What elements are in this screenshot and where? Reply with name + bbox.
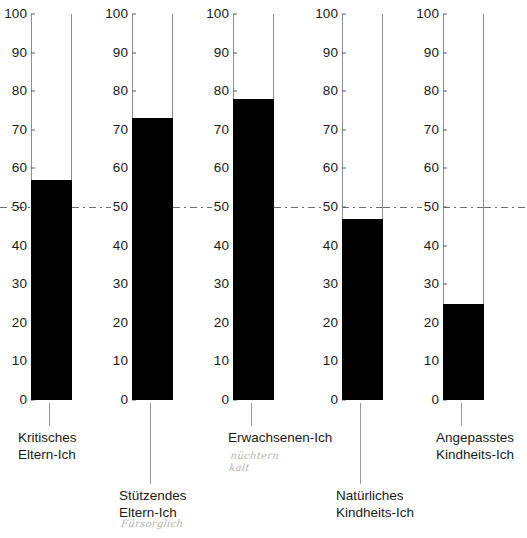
caption-line: Kindheits-Ich xyxy=(436,446,514,463)
y-axis-tick-mark-80-kritisches-eltern-ich xyxy=(31,91,35,92)
y-axis-tick-mark-90-kritisches-eltern-ich xyxy=(31,52,35,53)
y-axis-tick-label-90-kritisches-eltern-ich: 90 xyxy=(12,46,27,60)
y-axis-tick-label-0-natuerliches-kindheits-ich: 0 xyxy=(330,393,338,407)
y-axis-tick-label-100-erwachsenen-ich: 100 xyxy=(206,7,229,21)
reference-line-segment-2 xyxy=(274,207,321,208)
caption-line: Erwachsenen-Ich xyxy=(228,429,332,446)
y-axis-tick-label-50-erwachsenen-ich: 50 xyxy=(214,200,229,214)
y-axis-tick-label-40-kritisches-eltern-ich: 40 xyxy=(12,239,27,253)
handwritten-annotation-erwachsenen-ich: nüchternkalt xyxy=(229,450,280,473)
y-axis-tick-mark-50-angepasstes-kindheits-ich xyxy=(443,207,447,208)
y-axis-tick-mark-80-natuerliches-kindheits-ich xyxy=(342,91,346,92)
y-axis-tick-label-60-angepasstes-kindheits-ich: 60 xyxy=(424,162,439,176)
y-axis-tick-label-100-angepasstes-kindheits-ich: 100 xyxy=(416,7,439,21)
y-axis-tick-label-100-stuetzendes-eltern-ich: 100 xyxy=(105,7,128,21)
y-axis-tick-label-80-angepasstes-kindheits-ich: 80 xyxy=(424,84,439,98)
y-axis-tick-label-80-erwachsenen-ich: 80 xyxy=(214,84,229,98)
y-axis-tick-label-80-stuetzendes-eltern-ich: 80 xyxy=(113,84,128,98)
y-axis-tick-label-20-erwachsenen-ich: 20 xyxy=(214,316,229,330)
y-axis-tick-label-70-natuerliches-kindheits-ich: 70 xyxy=(323,123,338,137)
y-axis-tick-label-70-stuetzendes-eltern-ich: 70 xyxy=(113,123,128,137)
y-axis-tick-label-70-kritisches-eltern-ich: 70 xyxy=(12,123,27,137)
y-axis-tick-mark-100-kritisches-eltern-ich xyxy=(31,14,35,15)
y-axis-tick-mark-60-kritisches-eltern-ich xyxy=(31,168,35,169)
y-axis-tick-label-40-erwachsenen-ich: 40 xyxy=(214,239,229,253)
y-axis-tick-label-50-angepasstes-kindheits-ich: 50 xyxy=(424,200,439,214)
y-axis-tick-mark-100-erwachsenen-ich xyxy=(233,14,237,15)
y-axis-tick-label-20-angepasstes-kindheits-ich: 20 xyxy=(424,316,439,330)
y-axis-tick-label-100-natuerliches-kindheits-ich: 100 xyxy=(315,7,338,21)
y-axis-tick-mark-70-angepasstes-kindheits-ich xyxy=(443,129,447,130)
reference-line-segment-0 xyxy=(72,207,111,208)
y-axis-tick-label-30-erwachsenen-ich: 30 xyxy=(214,277,229,291)
y-axis-tick-mark-90-stuetzendes-eltern-ich xyxy=(132,52,136,53)
caption-line: Angepasstes xyxy=(436,429,514,446)
leader-line-angepasstes-kindheits-ich xyxy=(461,403,462,426)
caption-line: Kritisches xyxy=(18,429,77,446)
y-axis-tick-label-30-kritisches-eltern-ich: 30 xyxy=(12,277,27,291)
annotation-line: kalt xyxy=(229,462,279,474)
y-axis-tick-mark-60-natuerliches-kindheits-ich xyxy=(342,168,346,169)
y-axis-tick-label-40-stuetzendes-eltern-ich: 40 xyxy=(113,239,128,253)
y-axis-tick-label-90-natuerliches-kindheits-ich: 90 xyxy=(323,46,338,60)
y-axis-tick-label-30-stuetzendes-eltern-ich: 30 xyxy=(113,277,128,291)
y-axis-tick-label-30-angepasstes-kindheits-ich: 30 xyxy=(424,277,439,291)
bar-chart: 0102030405060708090100KritischesEltern-I… xyxy=(0,0,527,538)
y-axis-tick-label-70-erwachsenen-ich: 70 xyxy=(214,123,229,137)
leader-line-natuerliches-kindheits-ich xyxy=(360,403,361,484)
y-axis-tick-label-60-natuerliches-kindheits-ich: 60 xyxy=(323,162,338,176)
y-axis-tick-label-10-angepasstes-kindheits-ich: 10 xyxy=(424,355,439,369)
reference-line-segment-3 xyxy=(383,207,422,208)
y-axis-tick-label-70-angepasstes-kindheits-ich: 70 xyxy=(424,123,439,137)
y-axis-tick-label-50-natuerliches-kindheits-ich: 50 xyxy=(323,200,338,214)
y-axis-tick-label-10-stuetzendes-eltern-ich: 10 xyxy=(113,355,128,369)
y-axis-tick-label-80-natuerliches-kindheits-ich: 80 xyxy=(323,84,338,98)
y-axis-tick-label-80-kritisches-eltern-ich: 80 xyxy=(12,84,27,98)
annotation-line: nüchtern xyxy=(230,450,280,462)
bar-caption-natuerliches-kindheits-ich: NatürlichesKindheits-Ich xyxy=(336,487,414,521)
bar-natuerliches-kindheits-ich xyxy=(342,219,383,400)
caption-line: Eltern-Ich xyxy=(18,446,77,463)
y-axis-tick-label-0-stuetzendes-eltern-ich: 0 xyxy=(120,393,128,407)
y-axis-tick-mark-90-natuerliches-kindheits-ich xyxy=(342,52,346,53)
y-axis-tick-mark-80-angepasstes-kindheits-ich xyxy=(443,91,447,92)
bar-caption-angepasstes-kindheits-ich: AngepasstesKindheits-Ich xyxy=(436,429,514,463)
bar-caption-stuetzendes-eltern-ich: StützendesEltern-Ich xyxy=(119,487,187,521)
y-axis-tick-label-0-kritisches-eltern-ich: 0 xyxy=(19,393,27,407)
bar-angepasstes-kindheits-ich xyxy=(443,304,484,401)
y-axis-tick-mark-100-natuerliches-kindheits-ich xyxy=(342,14,346,15)
annotation-line: Fürsorglich xyxy=(120,518,183,530)
y-axis-tick-label-10-kritisches-eltern-ich: 10 xyxy=(12,355,27,369)
caption-line: Natürliches xyxy=(336,487,414,504)
y-axis-tick-mark-30-angepasstes-kindheits-ich xyxy=(443,284,447,285)
y-axis-tick-label-90-angepasstes-kindheits-ich: 90 xyxy=(424,46,439,60)
reference-line-segment-4 xyxy=(484,207,527,208)
y-axis-tick-mark-100-angepasstes-kindheits-ich xyxy=(443,14,447,15)
y-axis-tick-mark-100-stuetzendes-eltern-ich xyxy=(132,14,136,15)
y-axis-tick-label-0-angepasstes-kindheits-ich: 0 xyxy=(431,393,439,407)
bar-caption-kritisches-eltern-ich: KritischesEltern-Ich xyxy=(18,429,77,463)
y-axis-tick-label-10-natuerliches-kindheits-ich: 10 xyxy=(323,355,338,369)
handwritten-annotation-stuetzendes-eltern-ich: Fürsorglich xyxy=(120,518,183,530)
y-axis-tick-mark-70-kritisches-eltern-ich xyxy=(31,129,35,130)
y-axis-tick-label-100-kritisches-eltern-ich: 100 xyxy=(4,7,27,21)
y-axis-tick-label-50-kritisches-eltern-ich: 50 xyxy=(12,200,27,214)
y-axis-tick-mark-90-angepasstes-kindheits-ich xyxy=(443,52,447,53)
y-axis-tick-label-20-kritisches-eltern-ich: 20 xyxy=(12,316,27,330)
y-axis-tick-mark-60-angepasstes-kindheits-ich xyxy=(443,168,447,169)
y-axis-tick-label-0-erwachsenen-ich: 0 xyxy=(221,393,229,407)
reference-line-segment-1 xyxy=(173,207,212,208)
y-axis-tick-label-60-stuetzendes-eltern-ich: 60 xyxy=(113,162,128,176)
y-axis-tick-label-50-stuetzendes-eltern-ich: 50 xyxy=(113,200,128,214)
y-axis-tick-mark-90-erwachsenen-ich xyxy=(233,52,237,53)
y-axis-tick-mark-50-natuerliches-kindheits-ich xyxy=(342,207,346,208)
leader-line-erwachsenen-ich xyxy=(251,403,252,426)
caption-line: Kindheits-Ich xyxy=(336,504,414,521)
y-axis-tick-label-40-angepasstes-kindheits-ich: 40 xyxy=(424,239,439,253)
leader-line-kritisches-eltern-ich xyxy=(49,403,50,426)
y-axis-tick-mark-70-natuerliches-kindheits-ich xyxy=(342,129,346,130)
y-axis-tick-label-20-stuetzendes-eltern-ich: 20 xyxy=(113,316,128,330)
y-axis-tick-label-90-stuetzendes-eltern-ich: 90 xyxy=(113,46,128,60)
bar-column-stuetzendes-eltern-ich: 0102030405060708090100 xyxy=(132,0,173,538)
bar-caption-erwachsenen-ich: Erwachsenen-Ich xyxy=(228,429,332,446)
